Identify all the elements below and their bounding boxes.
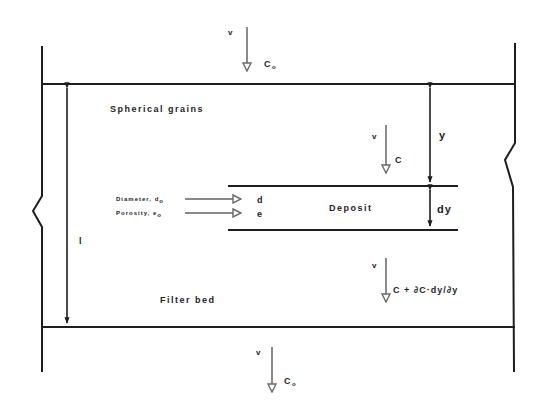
depth-concentration-label: C: [395, 156, 403, 165]
lower-concentration-label: C + ∂C·dy/∂y: [393, 286, 458, 295]
diameter-label-subscript: o: [159, 198, 164, 204]
inlet-concentration-symbol: C: [264, 59, 272, 69]
inlet-velocity-label: v: [228, 29, 232, 37]
porosity-label-subscript: o: [157, 212, 162, 218]
bed-height-label: l: [79, 237, 83, 246]
porosity-input-label: Porosity, eo: [116, 210, 162, 218]
inlet-concentration-label: Co: [264, 60, 277, 70]
deposit-label: Deposit: [329, 204, 373, 213]
spherical-grains-label: Spherical grains: [110, 105, 204, 114]
right-wall: [505, 43, 515, 372]
depth-label: y: [439, 130, 446, 141]
left-wall: [33, 46, 42, 372]
outlet-concentration-label: Co: [284, 377, 297, 387]
lower-velocity-label: v: [372, 262, 376, 270]
diameter-input-label: Diameter, do: [116, 196, 164, 204]
inlet-concentration-subscript: o: [272, 64, 277, 70]
outlet-velocity-label: v: [256, 349, 260, 357]
outlet-concentration-subscript: o: [292, 381, 297, 387]
porosity-label-text: Porosity, e: [116, 210, 157, 216]
diameter-target-label: d: [257, 196, 264, 205]
outlet-concentration-symbol: C: [284, 376, 292, 386]
porosity-target-label: e: [257, 210, 264, 219]
diameter-label-text: Diameter, d: [116, 196, 159, 202]
layer-thickness-label: dy: [437, 204, 452, 215]
depth-velocity-label: v: [372, 133, 376, 141]
filter-bed-label: Filter bed: [160, 296, 216, 305]
